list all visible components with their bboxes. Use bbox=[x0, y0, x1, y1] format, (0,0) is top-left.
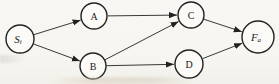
edge-c-to-fa bbox=[204, 19, 242, 32]
node-label-sub-si: i bbox=[20, 38, 22, 46]
state-graph-diagram: SiABCDFa bbox=[0, 0, 279, 84]
node-label-a: A bbox=[90, 11, 98, 22]
edge-si-to-a bbox=[34, 20, 81, 35]
node-label-base-c: C bbox=[188, 10, 195, 21]
edge-si-to-b bbox=[34, 44, 80, 61]
edge-b-to-d bbox=[107, 64, 175, 65]
node-label-base-a: A bbox=[90, 11, 98, 22]
node-label-b: B bbox=[90, 61, 97, 72]
node-label-base-b: B bbox=[90, 61, 97, 72]
node-label-c: C bbox=[188, 10, 195, 21]
edge-b-to-c bbox=[105, 22, 179, 60]
edge-d-to-fa bbox=[203, 43, 243, 59]
node-label-sub-fa: a bbox=[258, 36, 262, 44]
node-label-base-d: D bbox=[185, 59, 192, 70]
scanned-figure-page: SiABCDFa bbox=[0, 0, 279, 84]
edge-a-to-c bbox=[108, 15, 178, 16]
node-label-d: D bbox=[185, 59, 192, 70]
